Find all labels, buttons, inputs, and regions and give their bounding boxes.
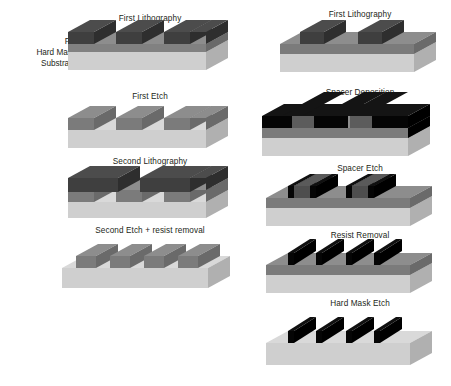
figure-right-step-3 <box>266 178 446 234</box>
figure-right-step-4 <box>266 245 446 301</box>
process-flow-diagram: PR Hard Mask Substrate First Lithography… <box>0 0 451 386</box>
caption-right-step-3: Spacer Etch <box>337 164 383 174</box>
figure-left-step-1 <box>68 22 238 84</box>
figure-right-step-2 <box>262 102 447 164</box>
caption-right-step-1: First Lithography <box>329 10 392 20</box>
figure-left-step-2 <box>68 102 238 160</box>
figure-left-step-3 <box>68 168 243 230</box>
figure-left-step-4 <box>62 238 242 298</box>
figure-right-step-5 <box>266 313 446 373</box>
figure-right-step-1 <box>280 26 445 82</box>
caption-left-step-2: First Etch <box>132 92 168 102</box>
